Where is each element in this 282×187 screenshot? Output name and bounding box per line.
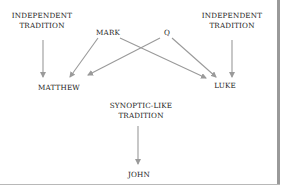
right-border — [277, 0, 280, 185]
node-label: LUKE — [214, 81, 236, 91]
node-label: Q — [164, 28, 170, 38]
synoptic-diagram: INDEPENDENT TRADITION MARK Q INDEPENDENT… — [0, 0, 282, 187]
arrow-mark-to-luke — [120, 38, 206, 78]
node-label: MARK — [96, 28, 120, 38]
bottom-border — [0, 184, 280, 185]
node-independent-tradition-left: INDEPENDENT TRADITION — [12, 11, 72, 30]
node-label-line1: INDEPENDENT — [202, 11, 262, 21]
node-label: JOHN — [128, 170, 150, 180]
arrow-mark-to-matthew — [70, 38, 98, 77]
node-label: MATTHEW — [38, 83, 80, 93]
node-synoptic-like-tradition: SYNOPTIC-LIKE TRADITION — [110, 101, 172, 120]
node-luke: LUKE — [214, 81, 236, 91]
arrow-q-to-luke — [172, 38, 216, 77]
node-label-line2: TRADITION — [110, 111, 172, 121]
node-john: JOHN — [128, 170, 150, 180]
node-label-line2: TRADITION — [12, 21, 72, 31]
node-mark: MARK — [96, 28, 120, 38]
node-label-line1: SYNOPTIC-LIKE — [110, 101, 172, 111]
node-matthew: MATTHEW — [38, 83, 80, 93]
arrow-q-to-matthew — [88, 38, 160, 75]
node-independent-tradition-right: INDEPENDENT TRADITION — [202, 11, 262, 30]
node-label-line2: TRADITION — [202, 21, 262, 31]
node-label-line1: INDEPENDENT — [12, 11, 72, 21]
node-q: Q — [164, 28, 170, 38]
